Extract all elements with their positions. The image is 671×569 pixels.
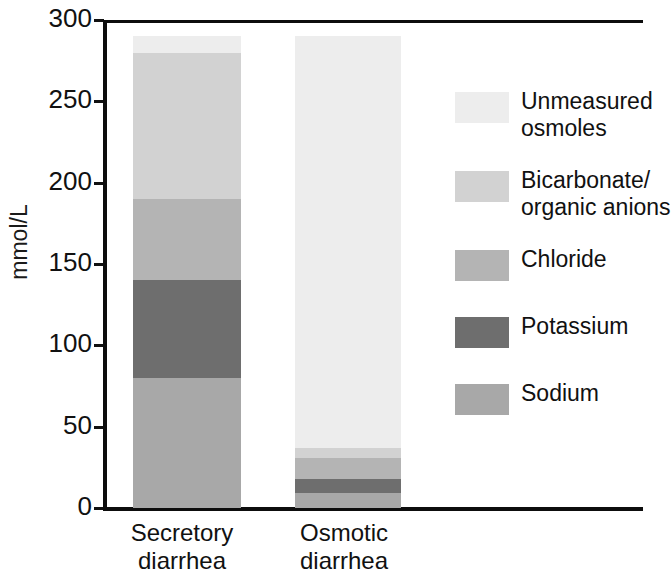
y-axis-tick-label-250: 250	[20, 86, 92, 112]
legend-label-unmeasured-osmoles: Unmeasuredosmoles	[521, 88, 671, 142]
legend-swatch-unmeasured-osmoles	[455, 92, 509, 123]
bar-segment-secretory-diarrhea-bicarbonate-organic-anions	[133, 53, 241, 199]
bar-segment-osmotic-diarrhea-potassium	[295, 479, 401, 494]
x-axis-category-line: Osmotic	[246, 519, 442, 547]
legend-label-line: Bicarbonate/	[521, 167, 671, 194]
bar-segment-secretory-diarrhea-unmeasured-osmoles	[133, 36, 241, 52]
bar-osmotic-diarrhea	[295, 36, 401, 508]
bar-segment-secretory-diarrhea-chloride	[133, 199, 241, 280]
legend-swatch-sodium	[455, 384, 509, 415]
bar-secretory-diarrhea	[133, 36, 241, 508]
legend-swatch-potassium	[455, 317, 509, 348]
legend-label-line: Chloride	[521, 246, 671, 273]
y-axis-tick-label-200: 200	[20, 168, 92, 194]
y-axis-tick-label-150: 150	[20, 249, 92, 275]
bar-segment-osmotic-diarrhea-chloride	[295, 458, 401, 479]
y-axis-tick-label-0: 0	[20, 493, 92, 519]
legend-label-bicarbonate-organic-anions: Bicarbonate/organic anions	[521, 167, 671, 221]
x-axis-category-line: diarrhea	[246, 547, 442, 569]
y-axis-tick-label-50: 50	[20, 412, 92, 438]
legend-label-line: Sodium	[521, 380, 671, 407]
legend-label-line: organic anions	[521, 194, 671, 221]
legend-label-line: Potassium	[521, 313, 671, 340]
y-axis-tick-labels: 050100150200250300	[20, 0, 92, 569]
x-axis-category-label-osmotic: Osmoticdiarrhea	[246, 519, 442, 569]
bar-segment-osmotic-diarrhea-bicarbonate-organic-anions	[295, 448, 401, 458]
y-axis-tick-label-300: 300	[20, 5, 92, 31]
legend-label-chloride: Chloride	[521, 246, 671, 273]
bar-segment-secretory-diarrhea-sodium	[133, 378, 241, 508]
legend-label-line: osmoles	[521, 115, 671, 142]
y-axis-tick-label-100: 100	[20, 330, 92, 356]
bar-segment-osmotic-diarrhea-unmeasured-osmoles	[295, 36, 401, 448]
legend-swatch-chloride	[455, 250, 509, 281]
bar-segment-osmotic-diarrhea-sodium	[295, 493, 401, 508]
legend-label-sodium: Sodium	[521, 380, 671, 407]
bar-segment-secretory-diarrhea-potassium	[133, 280, 241, 378]
legend-label-line: Unmeasured	[521, 88, 671, 115]
legend-label-potassium: Potassium	[521, 313, 671, 340]
legend-swatch-bicarbonate-organic-anions	[455, 171, 509, 202]
